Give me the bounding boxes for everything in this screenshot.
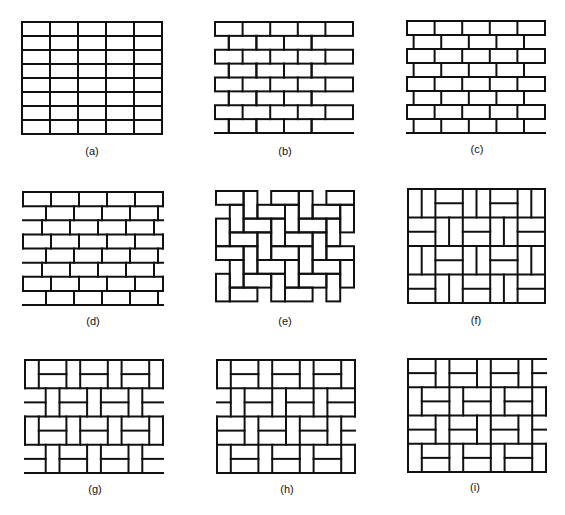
panel-label-e: (e) <box>278 315 291 327</box>
pattern-c-quarter-running-bond <box>407 21 545 133</box>
panel-label-g: (g) <box>88 483 101 495</box>
panel-label-b: (b) <box>278 145 291 157</box>
panel-label-d: (d) <box>86 315 99 327</box>
panel-label-f: (f) <box>471 314 481 326</box>
panel-label-h: (h) <box>280 483 293 495</box>
pattern-f-basket-weave <box>408 189 545 303</box>
pattern-a-stack-bond <box>22 22 162 134</box>
pattern-h-basket-diagonal-right <box>217 360 355 473</box>
brick-patterns-figure <box>0 0 565 515</box>
panel-label-a: (a) <box>85 145 98 157</box>
pattern-i-basket-alternating <box>408 359 546 472</box>
pattern-g-basket-stack-half <box>25 360 163 473</box>
pattern-e-herringbone <box>216 191 354 301</box>
panel-label-i: (i) <box>470 481 480 493</box>
pattern-b-running-bond <box>215 22 353 133</box>
pattern-d-raking-stretcher-bond <box>23 192 163 305</box>
panel-label-c: (c) <box>471 143 484 155</box>
